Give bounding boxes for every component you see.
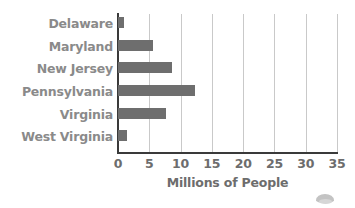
x-tick-label-5: 5 — [137, 156, 161, 171]
x-tick-label-35: 35 — [325, 156, 349, 171]
category-label-virginia: Virginia — [0, 107, 113, 122]
bar-virginia — [118, 108, 166, 119]
x-tick-label-30: 30 — [294, 156, 318, 171]
x-axis-line — [117, 152, 338, 154]
bar-west-virginia — [118, 130, 127, 141]
bar-pennsylvania — [118, 85, 195, 96]
x-tick-label-20: 20 — [231, 156, 255, 171]
gridline-35 — [337, 14, 338, 152]
x-tick-label-25: 25 — [262, 156, 286, 171]
x-axis-title: Millions of People — [118, 175, 337, 190]
bar-new-jersey — [118, 62, 172, 73]
plot-area — [118, 14, 337, 152]
scan-artifact — [316, 194, 334, 203]
x-tick-label-10: 10 — [169, 156, 193, 171]
bar-maryland — [118, 40, 153, 51]
x-tick-label-0: 0 — [106, 156, 130, 171]
gridline-25 — [274, 14, 275, 152]
category-label-west-virginia: West Virginia — [0, 129, 113, 144]
category-label-delaware: Delaware — [0, 16, 113, 31]
gridline-5 — [149, 14, 150, 152]
bar-delaware — [118, 17, 124, 28]
bar-chart: Delaware Maryland New Jersey Pennsylvani… — [0, 0, 355, 208]
category-label-maryland: Maryland — [0, 39, 113, 54]
gridline-20 — [243, 14, 244, 152]
gridline-30 — [306, 14, 307, 152]
gridline-10 — [181, 14, 182, 152]
category-label-new-jersey: New Jersey — [0, 61, 113, 76]
category-label-pennsylvania: Pennsylvania — [0, 84, 113, 99]
gridline-15 — [212, 14, 213, 152]
x-tick-label-15: 15 — [200, 156, 224, 171]
